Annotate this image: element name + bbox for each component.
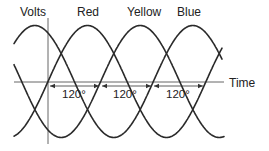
phase-shift-label-3: 120°: [166, 88, 190, 100]
phase-shift-label-2: 120°: [113, 88, 137, 100]
x-axis-label: Time: [229, 76, 256, 90]
phase-curve-blue: [14, 26, 222, 138]
phase-shift-label-1: 120°: [62, 88, 86, 100]
three-phase-diagram: Volts Red Yellow Blue Time 120° 120° 120…: [0, 0, 269, 151]
phase-label-blue: Blue: [177, 5, 201, 19]
y-axis-label: Volts: [20, 5, 46, 19]
phase-curves: [14, 26, 224, 138]
phase-curve-yellow: [14, 26, 224, 138]
phase-label-red: Red: [77, 5, 99, 19]
phase-label-yellow: Yellow: [127, 5, 162, 19]
phase-curve-red: [14, 26, 222, 138]
